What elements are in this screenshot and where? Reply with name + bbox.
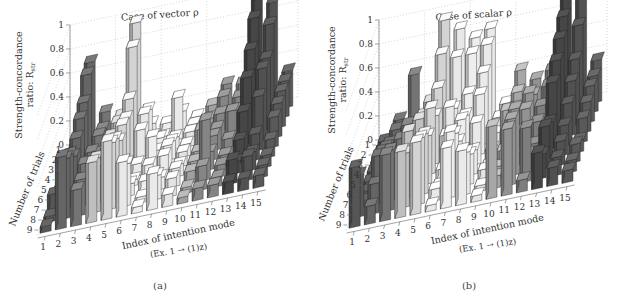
trial-tick-label: 1 [364, 140, 370, 150]
trial-tick-label: 4 [45, 175, 51, 185]
panel-label-a: (a) [140, 280, 180, 291]
chart-panel-a: 00.20.40.60.81Strength-concordanceratio:… [0, 0, 319, 303]
mode-tick-label: 7 [441, 218, 447, 228]
z-tick-label: 1 [58, 20, 64, 30]
trial-tick-label: 3 [48, 165, 54, 175]
mode-tick-label: 8 [147, 220, 153, 230]
z-tick-label: 1 [367, 15, 373, 25]
trial-tick-label: 9 [27, 225, 33, 235]
mode-tick-label: 4 [395, 228, 401, 238]
bar [131, 198, 145, 214]
mode-tick-label: 2 [56, 239, 62, 249]
mode-tick-label: 5 [410, 225, 416, 235]
z-axis-title: Strength-concordanceratio: Rstr [13, 31, 37, 139]
bar [562, 162, 576, 184]
bar3d-chart-scalar-rho: 00.20.40.60.81Strength-concordanceratio:… [319, 0, 638, 280]
mode-tick-label: 11 [498, 205, 509, 215]
mode-tick-label: 3 [71, 236, 77, 246]
z-tick-label: 0.6 [359, 63, 374, 73]
mode-tick-label: 10 [174, 214, 186, 224]
bar [238, 170, 252, 192]
trial-tick-label: 2 [52, 155, 58, 165]
z-tick-label: 0.4 [50, 92, 65, 102]
mode-tick-label: 10 [483, 209, 495, 219]
bar [223, 173, 237, 195]
z-axis: 00.20.40.60.81 [359, 15, 379, 145]
trial-tick-label: 1 [55, 145, 61, 155]
mode-tick-label: 1 [40, 242, 46, 252]
mode-tick-label: 14 [235, 201, 247, 211]
trial-tick-label: 2 [361, 150, 367, 160]
mode-tick-label: 11 [189, 210, 200, 220]
trial-tick-label: 8 [30, 215, 36, 225]
z-tick-label: 0.4 [359, 87, 374, 97]
mode-tick-label: 6 [425, 221, 431, 231]
z-axis-title: Strength-concordanceratio: Rstr [326, 26, 350, 134]
mode-tick-label: 14 [544, 196, 556, 206]
mode-tick-label: 8 [456, 215, 462, 225]
mode-tick-label: 9 [471, 212, 477, 222]
mode-tick-label: 4 [86, 233, 92, 243]
z-tick-label: 0.6 [50, 68, 65, 78]
bar [40, 218, 54, 234]
mode-tick-label: 6 [116, 226, 122, 236]
mode-tick-label: 7 [132, 223, 138, 233]
z-tick-label: 0.2 [50, 116, 64, 126]
mode-tick-label: 15 [559, 193, 571, 203]
trial-tick-label: 6 [346, 190, 352, 200]
bar3d-chart-vector-rho: 00.20.40.60.81Strength-concordanceratio:… [0, 0, 319, 280]
trial-tick-label: 7 [343, 200, 349, 210]
bar [425, 197, 439, 213]
trial-tick-label: 6 [37, 195, 43, 205]
mode-tick-label: 12 [514, 202, 525, 212]
bar [471, 187, 485, 203]
mode-tick-label: 13 [220, 204, 232, 214]
z-tick-label: 0.8 [359, 39, 374, 49]
mode-tick-label: 13 [529, 199, 541, 209]
panel-label-b: (b) [449, 280, 489, 291]
bar [516, 171, 530, 193]
trial-tick-label: 5 [350, 180, 356, 190]
trial-tick-label: 4 [354, 170, 360, 180]
mode-tick-label: 3 [380, 231, 386, 241]
trial-tick-label: 7 [34, 205, 40, 215]
z-tick-label: 0.8 [50, 44, 65, 54]
mode-tick-label: 12 [205, 207, 216, 217]
mode-axis-subtitle: (Ex. 1 → (1)z) [149, 241, 207, 259]
mode-axis-subtitle: (Ex. 1 → (1)z) [458, 236, 516, 254]
trial-tick-label: 5 [41, 185, 47, 195]
z-axis: 00.20.40.60.81 [50, 20, 70, 150]
bar [162, 186, 176, 208]
mode-tick-label: 15 [250, 198, 262, 208]
bar [207, 176, 221, 198]
mode-tick-label: 1 [349, 237, 355, 247]
bar [192, 180, 206, 202]
bar [253, 167, 267, 189]
chart-panel-b: 00.20.40.60.81Strength-concordanceratio:… [319, 0, 638, 303]
trial-tick-label: 3 [357, 160, 363, 170]
mode-tick-label: 9 [162, 217, 168, 227]
mode-tick-label: 2 [365, 234, 371, 244]
bar [177, 189, 191, 205]
mode-tick-label: 5 [101, 230, 107, 240]
trial-tick-label: 8 [339, 210, 345, 220]
trial-tick-label: 9 [336, 220, 342, 230]
z-tick-label: 0.2 [359, 111, 373, 121]
